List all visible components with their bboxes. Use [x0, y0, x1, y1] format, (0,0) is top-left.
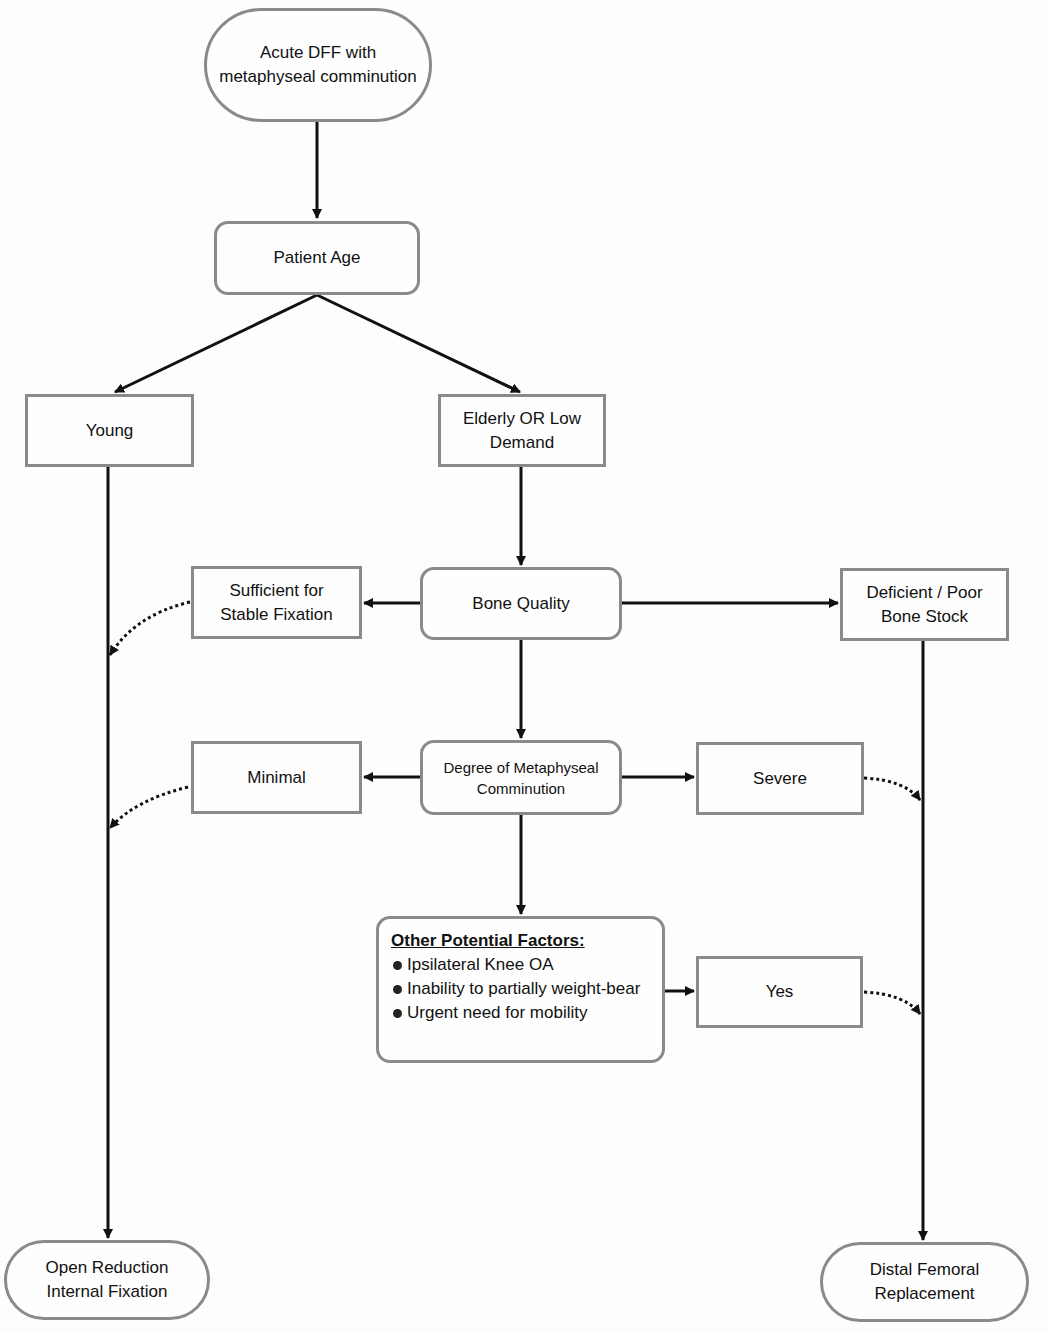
minimal-node: Minimal — [191, 741, 362, 814]
other-factors-node: Other Potential Factors: Ipsilateral Kne… — [376, 916, 665, 1063]
factor-item: Urgent need for mobility — [391, 1001, 640, 1025]
bone-quality-node: Bone Quality — [420, 567, 622, 640]
deficient-label: Deficient / Poor Bone Stock — [850, 581, 1000, 629]
sufficient-node: Sufficient for Stable Fixation — [191, 566, 362, 639]
severe-label: Severe — [753, 767, 807, 791]
young-node: Young — [25, 394, 194, 467]
orif-label: Open Reduction Internal Fixation — [32, 1256, 182, 1304]
comminution-node: Degree of Metaphyseal Comminution — [420, 740, 622, 815]
dfr-node: Distal Femoral Replacement — [820, 1242, 1029, 1322]
bone-quality-label: Bone Quality — [472, 592, 569, 616]
start-label: Acute DFF with metaphyseal comminution — [211, 41, 425, 89]
start-node: Acute DFF with metaphyseal comminution — [204, 8, 432, 122]
factor-item: Inability to partially weight-bear — [391, 977, 640, 1001]
deficient-node: Deficient / Poor Bone Stock — [840, 568, 1009, 641]
young-label: Young — [86, 419, 134, 443]
sufficient-label: Sufficient for Stable Fixation — [207, 579, 347, 627]
minimal-label: Minimal — [247, 766, 306, 790]
factor-item: Ipsilateral Knee OA — [391, 953, 640, 977]
factors-list: Ipsilateral Knee OA Inability to partial… — [391, 953, 640, 1025]
severe-node: Severe — [696, 742, 864, 815]
patient-age-node: Patient Age — [214, 221, 420, 295]
connector-layer — [0, 0, 1048, 1331]
elderly-label: Elderly OR Low Demand — [462, 407, 582, 455]
dfr-label: Distal Femoral Replacement — [860, 1258, 990, 1306]
elderly-node: Elderly OR Low Demand — [438, 394, 606, 467]
factors-title: Other Potential Factors: — [391, 929, 585, 953]
yes-node: Yes — [696, 956, 863, 1028]
orif-node: Open Reduction Internal Fixation — [4, 1240, 210, 1320]
yes-label: Yes — [766, 980, 794, 1004]
comminution-label: Degree of Metaphyseal Comminution — [431, 757, 611, 799]
patient-age-label: Patient Age — [274, 246, 361, 270]
